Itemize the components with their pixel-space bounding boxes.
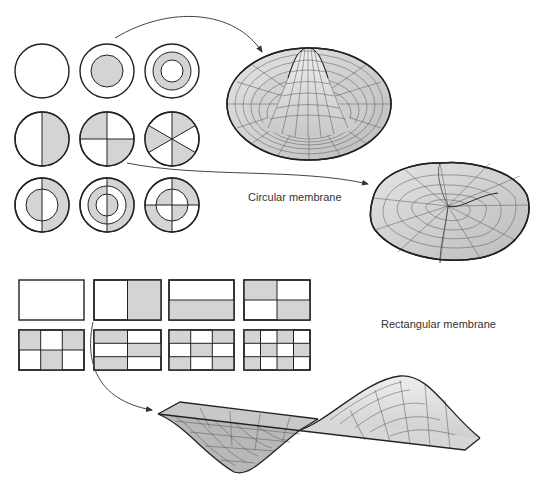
- circle-mode-plain: [15, 44, 69, 98]
- rect-mode-2x1: [94, 280, 161, 320]
- membrane-modes-diagram: [0, 0, 541, 489]
- rect-mode-3x2: [19, 330, 84, 370]
- circle-mode-quarters: [80, 112, 134, 166]
- circle-mode-ring: [145, 44, 199, 98]
- rect-mode-3x3: [169, 330, 234, 370]
- circle-mode-half: [15, 112, 69, 166]
- rectangular-membrane-label: Rectangular membrane: [381, 318, 496, 330]
- circular-mode-grid: [15, 44, 199, 232]
- rect-mode-1x1: [19, 280, 84, 320]
- circle-mode-sixths: [145, 112, 199, 166]
- rect-mode-4x3: [244, 330, 310, 370]
- rect-mode-1x2: [169, 280, 234, 320]
- arrow-to-surface-1: [115, 16, 262, 52]
- circular-membrane-label: Circular membrane: [248, 191, 342, 203]
- circular-mode-0-1-surface: [227, 48, 391, 160]
- rectangular-mode-2-1-surface: [158, 376, 480, 473]
- rect-mode-2x3: [94, 330, 161, 370]
- circle-mode-quarters-nodal-circle: [145, 178, 199, 232]
- rect-mode-2x2: [244, 280, 310, 320]
- circle-mode-half-two-nodal-circles: [80, 178, 134, 232]
- circle-mode-half-nodal-circle: [15, 178, 69, 232]
- rectangular-mode-grid: [19, 280, 310, 370]
- circle-mode-inner-disk: [80, 44, 134, 98]
- circular-mode-3-1-surface: [370, 162, 529, 263]
